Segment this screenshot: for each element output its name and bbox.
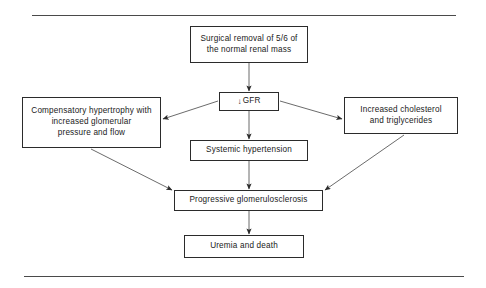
node-compensatory-hypertrophy: Compensatory hypertrophy with increased … — [22, 97, 161, 148]
node-surgical-removal-label: Surgical removal of 5/6 of the normal re… — [200, 34, 297, 56]
down-arrow-icon: ↓ — [237, 97, 242, 108]
node-systemic-hypertension-label: Systemic hypertension — [206, 145, 292, 156]
node-increased-cholesterol-label: Increased cholesterol and triglycerides — [360, 105, 441, 127]
node-surgical-removal: Surgical removal of 5/6 of the normal re… — [190, 26, 308, 63]
flowchart-figure: Surgical removal of 5/6 of the normal re… — [0, 0, 486, 288]
node-uremia-and-death: Uremia and death — [184, 235, 304, 258]
node-systemic-hypertension: Systemic hypertension — [190, 140, 308, 161]
node-uremia-and-death-label: Uremia and death — [210, 241, 278, 252]
edge-cholesterol-to-progressive — [325, 135, 404, 190]
node-progressive-glomerulosclerosis-label: Progressive glomerulosclerosis — [189, 195, 307, 206]
node-decreased-gfr: ↓ GFR — [219, 92, 279, 111]
node-decreased-gfr-label: GFR — [243, 96, 261, 107]
edge-compensatory-to-progressive — [91, 149, 172, 190]
node-increased-cholesterol: Increased cholesterol and triglycerides — [344, 97, 458, 134]
node-compensatory-hypertrophy-label: Compensatory hypertrophy with increased … — [31, 106, 151, 138]
edge-gfr-to-cholesterol — [280, 101, 342, 119]
node-progressive-glomerulosclerosis: Progressive glomerulosclerosis — [174, 190, 323, 211]
edge-gfr-to-compensatory — [163, 101, 218, 119]
